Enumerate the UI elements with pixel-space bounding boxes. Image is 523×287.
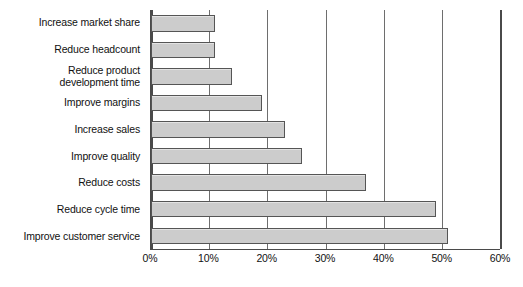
bar — [151, 148, 302, 164]
x-tick-label: 40% — [373, 252, 393, 264]
category-label: Increase sales — [0, 117, 146, 144]
x-tick-label: 10% — [198, 252, 218, 264]
category-label: Improve customer service — [0, 223, 146, 250]
bar-row — [151, 169, 500, 196]
bar-row — [151, 63, 500, 90]
category-label: Reduce product development time — [0, 63, 146, 90]
category-label: Reduce headcount — [0, 37, 146, 64]
x-tick-label: 30% — [315, 252, 335, 264]
x-tick-label: 60% — [490, 252, 510, 264]
category-label: Improve quality — [0, 143, 146, 170]
bar — [151, 95, 262, 111]
bar — [151, 15, 215, 31]
category-label: Reduce costs — [0, 170, 146, 197]
x-axis-tick-labels: 0%10%20%30%40%50%60% — [150, 252, 500, 272]
plot-area — [150, 10, 500, 250]
gridline — [500, 10, 502, 249]
category-label: Reduce cycle time — [0, 197, 146, 224]
bar-row — [151, 143, 500, 170]
bar-chart: Increase market share Reduce headcount R… — [0, 0, 523, 287]
x-tick-label: 50% — [431, 252, 451, 264]
bar-series — [151, 10, 500, 249]
x-tick-label: 0% — [143, 252, 158, 264]
category-label: Improve margins — [0, 90, 146, 117]
bar — [151, 174, 366, 190]
bar — [151, 201, 436, 217]
bar — [151, 42, 215, 58]
x-tick-label: 20% — [256, 252, 276, 264]
category-label: Increase market share — [0, 10, 146, 37]
bar-row — [151, 10, 500, 37]
bar-row — [151, 116, 500, 143]
bar-row — [151, 223, 500, 250]
bar-row — [151, 196, 500, 223]
bar-row — [151, 37, 500, 64]
bar — [151, 228, 448, 244]
bar — [151, 121, 285, 137]
category-label-column: Increase market share Reduce headcount R… — [0, 10, 146, 250]
bar — [151, 68, 232, 84]
bar-row — [151, 90, 500, 117]
